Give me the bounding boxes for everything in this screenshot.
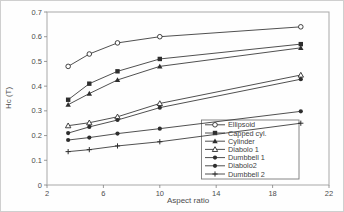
circle-filled-marker [213, 164, 217, 168]
chart-figure: EllipsoidCapped cyl.CylinderDiabolo 1Dum… [0, 0, 344, 212]
circle-filled-marker [299, 109, 303, 113]
x-tick-label: 6 [101, 189, 105, 198]
triangle-filled-marker [65, 102, 70, 107]
circle-open-marker [213, 123, 218, 128]
square-filled-marker [115, 69, 119, 73]
circle-filled-marker [87, 125, 91, 129]
circle-open-marker [158, 34, 163, 39]
x-tick-label: 18 [268, 189, 276, 198]
circle-filled-marker [213, 156, 217, 160]
x-tick-label: 2 [45, 189, 49, 198]
circle-filled-marker [66, 131, 70, 135]
y-tick-label: 0.3 [32, 106, 42, 115]
circle-filled-marker [158, 106, 162, 110]
series-line [68, 27, 301, 67]
y-tick-label: 0.2 [32, 131, 42, 140]
legend: EllipsoidCapped cyl.CylinderDiabolo 1Dum… [202, 120, 300, 179]
x-tick-label: 14 [212, 189, 220, 198]
series-cylinder [65, 45, 303, 107]
y-tick-label: 0.4 [32, 82, 42, 91]
y-tick-label: 0.6 [32, 32, 42, 41]
square-filled-marker [87, 81, 91, 85]
circle-open-marker [115, 41, 120, 46]
series-line [68, 75, 301, 126]
series-capped-cyl- [66, 42, 303, 102]
circle-open-marker [299, 25, 304, 30]
y-tick-label: 0 [38, 181, 42, 190]
series-diabolo-1 [65, 72, 303, 127]
circle-filled-marker [299, 77, 303, 81]
circle-filled-marker [87, 135, 91, 139]
x-tick-label: 22 [325, 189, 333, 198]
chart-svg: EllipsoidCapped cyl.CylinderDiabolo 1Dum… [1, 1, 344, 212]
circle-filled-marker [66, 138, 70, 142]
circle-open-marker [87, 52, 92, 57]
square-filled-marker [158, 57, 162, 61]
series-ellipsoid [66, 25, 303, 69]
circle-filled-marker [115, 118, 119, 122]
y-tick-label: 0.7 [32, 8, 42, 17]
circle-open-marker [66, 64, 71, 69]
y-tick-label: 0.5 [32, 57, 42, 66]
triangle-open-marker [298, 72, 303, 77]
triangle-filled-marker [87, 91, 92, 96]
y-tick-label: 0.1 [32, 156, 42, 165]
x-tick-label: 10 [156, 189, 164, 198]
circle-filled-marker [158, 127, 162, 131]
legend-item-label: Dumbbell 2 [228, 170, 265, 179]
square-filled-marker [66, 98, 70, 102]
y-axis-title: Hc (T) [4, 87, 13, 110]
x-axis-title: Aspect ratio [167, 196, 210, 205]
circle-filled-marker [115, 131, 119, 135]
